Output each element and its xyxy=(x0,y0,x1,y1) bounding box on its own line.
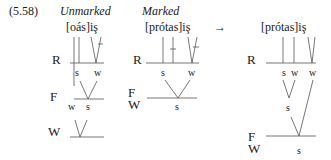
result-F-branch-s xyxy=(291,117,299,136)
marked-F-branch-w xyxy=(178,80,190,98)
result-mid-branch-w xyxy=(289,80,295,98)
result-R-branch-s xyxy=(312,37,315,63)
marked-F-branch-s xyxy=(165,80,178,98)
result-R-branch-i xyxy=(308,37,312,63)
unmarked-W-branch-s xyxy=(80,120,87,137)
unmarked-W-branch-w xyxy=(75,120,80,137)
marked-R-branch-i xyxy=(188,37,192,63)
unmarked-R-branch-i xyxy=(91,37,96,63)
unmarked-F-branch-w xyxy=(88,81,97,99)
marked-R-branch-s xyxy=(192,37,197,63)
result-F-branch-w xyxy=(299,80,313,136)
tree-lines xyxy=(0,0,331,160)
result-mid-branch-s xyxy=(283,80,289,98)
unmarked-F-branch-s xyxy=(80,81,88,99)
unmarked-R-branch-s xyxy=(96,37,101,63)
